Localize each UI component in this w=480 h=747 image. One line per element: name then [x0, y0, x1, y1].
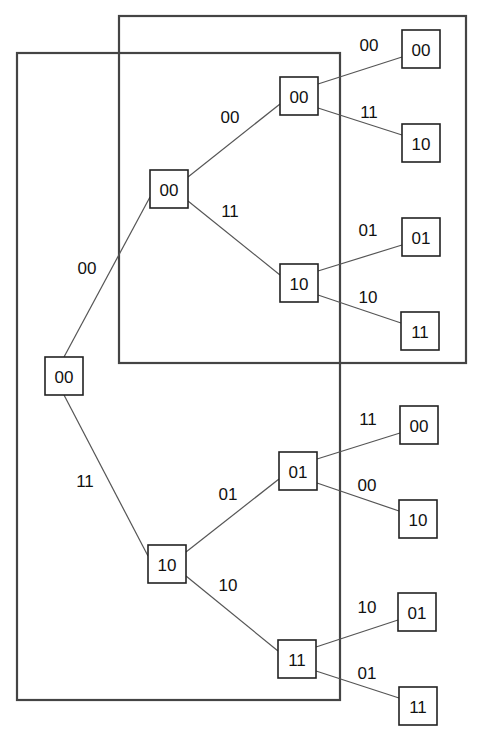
edges-layer	[64, 57, 402, 698]
node-label: 00	[412, 41, 431, 60]
state-node: 01	[398, 593, 436, 631]
state-node: 00	[150, 170, 188, 208]
node-label: 00	[160, 181, 179, 200]
node-label: 01	[289, 463, 308, 482]
state-node: 10	[280, 264, 318, 302]
edge-label: 11	[221, 202, 239, 221]
state-node: 10	[399, 500, 437, 538]
node-label: 01	[408, 604, 427, 623]
edge-n3-n7	[318, 57, 402, 84]
edge-n6-n13	[316, 620, 398, 647]
edge-label: 10	[219, 576, 238, 595]
edge-label: 00	[360, 36, 379, 55]
edge-label: 11	[359, 410, 377, 429]
state-node: 00	[402, 30, 440, 68]
edge-label: 00	[78, 259, 97, 278]
edge-label: 00	[221, 108, 240, 127]
node-label: 11	[409, 698, 427, 717]
node-label: 00	[55, 368, 74, 387]
state-node: 01	[279, 452, 317, 490]
state-node: 11	[399, 687, 437, 725]
node-label: 10	[158, 556, 177, 575]
state-node: 11	[278, 640, 316, 678]
edge-label: 10	[358, 598, 377, 617]
node-label: 10	[290, 275, 309, 294]
state-node: 00	[45, 357, 83, 395]
edge-labels-layer: 0011001101100011011011001001	[76, 36, 378, 683]
state-node: 00	[400, 406, 438, 444]
tree-diagram: 0011001101100011011011001001 00001000100…	[0, 0, 480, 747]
state-node: 11	[401, 312, 439, 350]
state-node: 10	[402, 124, 440, 162]
edge-label: 01	[219, 485, 238, 504]
node-label: 11	[288, 651, 306, 670]
edge-label: 11	[76, 472, 94, 491]
node-label: 00	[290, 88, 309, 107]
node-label: 10	[409, 511, 428, 530]
node-label: 11	[411, 323, 429, 342]
node-label: 10	[412, 135, 431, 154]
edge-n5-n11	[317, 433, 400, 459]
edge-label: 01	[358, 664, 377, 683]
node-label: 01	[412, 229, 431, 248]
edge-label: 00	[358, 476, 377, 495]
edge-n4-n9	[318, 245, 402, 271]
node-label: 00	[410, 417, 429, 436]
edge-label: 10	[359, 288, 378, 307]
state-node: 01	[402, 218, 440, 256]
state-node: 10	[148, 545, 186, 583]
state-node: 00	[280, 77, 318, 115]
edge-label: 11	[360, 103, 378, 122]
edge-label: 01	[359, 221, 378, 240]
